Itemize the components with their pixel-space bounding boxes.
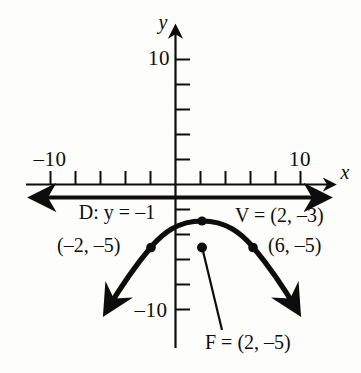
x-axis-label: x <box>341 162 350 182</box>
graph-canvas <box>0 0 361 373</box>
point-right-latus <box>248 243 258 253</box>
x-tick-label-minus-10: –10 <box>34 149 67 170</box>
vertex-label: V = (2, –3) <box>235 205 324 225</box>
x-tick-label-10: 10 <box>289 149 311 170</box>
directrix-label: D: y = –1 <box>79 202 155 222</box>
focus-label: F = (2, –5) <box>205 332 291 352</box>
left-point-label: (–2, –5) <box>57 235 120 255</box>
y-axis-label: y <box>159 12 168 32</box>
y-tick-label-minus-10: –10 <box>135 300 168 321</box>
parabola-figure: y x 10 –10 –10 10 D: y = –1 V = (2, –3) … <box>0 0 361 373</box>
point-left-latus <box>146 243 156 253</box>
y-tick-label-10: 10 <box>148 48 170 69</box>
focus-leader-line <box>203 251 222 330</box>
point-focus <box>197 243 207 253</box>
right-point-label: (6, –5) <box>268 235 321 255</box>
point-vertex <box>197 216 206 225</box>
